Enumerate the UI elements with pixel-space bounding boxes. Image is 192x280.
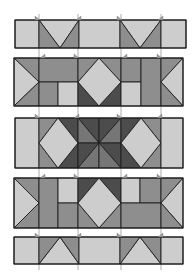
light-rect-patch <box>15 118 39 168</box>
seam-flag-icon <box>122 174 127 178</box>
light-rect-patch <box>15 20 39 48</box>
top-rect-patch <box>140 178 161 203</box>
seam-flag-icon <box>158 16 163 20</box>
narrow-rect-top-patch <box>121 58 141 82</box>
seam-flag-icon <box>158 233 163 237</box>
quilt-assembly-diagram <box>0 0 192 280</box>
seam-flag-icon <box>157 114 162 118</box>
narrow-rect-bottom-light-patch <box>121 82 141 106</box>
seam-flag-icon <box>76 233 81 237</box>
light-rect-patch <box>161 118 183 168</box>
bottom-left-rect-patch <box>39 82 58 106</box>
light-rect-patch <box>161 20 186 48</box>
light-rect-patch <box>14 237 39 264</box>
light-rect-patch <box>79 20 120 48</box>
light-rect-patch <box>79 237 120 264</box>
tall-rect-patch <box>141 58 161 106</box>
seam-flag-icon <box>122 54 127 58</box>
row-5-sashing <box>14 237 183 264</box>
seam-flag-icon <box>76 16 81 20</box>
row-1-sashing <box>15 20 186 48</box>
top-wide-rect-patch <box>39 58 78 82</box>
top-light-rect-patch <box>121 178 140 203</box>
row-2-blocks <box>14 58 183 106</box>
bottom-rect-patch <box>58 203 78 228</box>
row-4-blocks <box>14 178 183 228</box>
top-light-rect-patch <box>58 178 78 203</box>
light-rect-patch <box>161 237 183 264</box>
bottom-right-light-rect-patch <box>58 82 78 106</box>
tall-rect-patch <box>39 178 58 228</box>
seam-flag-icon <box>40 54 45 58</box>
seam-flag-icon <box>74 114 79 118</box>
bottom-wide-rect-patch <box>121 203 161 228</box>
quilt-diagram-canvas <box>0 0 192 280</box>
row-3-blocks <box>15 118 183 168</box>
seam-flag-icon <box>40 174 45 178</box>
